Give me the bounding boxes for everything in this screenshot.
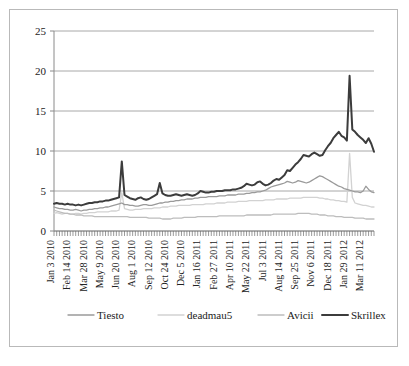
x-tick-label: Jan 29 2012 bbox=[338, 240, 349, 288]
x-tick-label: Dec 5 2010 bbox=[175, 240, 186, 286]
x-axis bbox=[54, 231, 374, 236]
y-tick-label: 15 bbox=[35, 105, 47, 117]
x-tick-label: Feb 14 2010 bbox=[61, 240, 72, 290]
x-tick-label: May 9 2010 bbox=[94, 240, 105, 288]
y-tick-label: 5 bbox=[41, 185, 47, 197]
series-line-tiesto bbox=[54, 176, 374, 211]
x-tick-label: Dec 18 2011 bbox=[322, 240, 333, 291]
x-tick-label: Feb 27 2011 bbox=[208, 240, 219, 290]
chart-legend: Tiestodeadmau5AviciiSkrillex bbox=[68, 309, 386, 321]
y-axis-tick-labels: 0510152025 bbox=[35, 25, 47, 237]
data-series-group bbox=[54, 76, 374, 219]
series-line-deadmau5 bbox=[54, 153, 374, 214]
legend-label-tiesto: Tiesto bbox=[97, 309, 125, 321]
series-line-skrillex bbox=[54, 76, 374, 206]
x-axis-tick-labels: Jan 3 2010Feb 14 2010Mar 28 2010May 9 20… bbox=[45, 240, 365, 293]
x-tick-label: Sep 25 2011 bbox=[289, 240, 300, 290]
x-tick-label: Jun 20 2010 bbox=[110, 240, 121, 289]
x-tick-label: Oct 24 2010 bbox=[159, 240, 170, 289]
legend-label-skrillex: Skrillex bbox=[351, 309, 386, 321]
x-tick-label: May 22 2011 bbox=[240, 240, 251, 293]
x-tick-label: Jan 16 2011 bbox=[191, 240, 202, 288]
x-tick-label: Mar 11 2012 bbox=[354, 240, 365, 291]
y-tick-label: 0 bbox=[41, 225, 47, 237]
x-tick-label: Nov 6 2011 bbox=[305, 240, 316, 287]
y-tick-label: 10 bbox=[35, 145, 47, 157]
x-tick-label: Aug 1 2010 bbox=[126, 240, 137, 287]
x-tick-label: Mar 28 2010 bbox=[78, 240, 89, 292]
legend-label-avicii: Avicii bbox=[287, 309, 314, 321]
x-tick-label: Apr 10 2011 bbox=[224, 240, 235, 290]
x-tick-label: Sep 12 2010 bbox=[143, 240, 154, 290]
legend-label-deadmau5: deadmau5 bbox=[187, 309, 233, 321]
y-tick-label: 25 bbox=[35, 25, 47, 37]
x-tick-label: Jan 3 2010 bbox=[45, 240, 56, 283]
chart-figure: 0510152025 Jan 3 2010Feb 14 2010Mar 28 2… bbox=[9, 9, 398, 347]
x-tick-label: Jul 3 2011 bbox=[257, 240, 268, 281]
line-chart: 0510152025 Jan 3 2010Feb 14 2010Mar 28 2… bbox=[10, 10, 397, 346]
y-axis bbox=[50, 31, 54, 231]
y-tick-label: 20 bbox=[35, 65, 47, 77]
x-tick-label: Aug 14 2011 bbox=[273, 240, 284, 292]
